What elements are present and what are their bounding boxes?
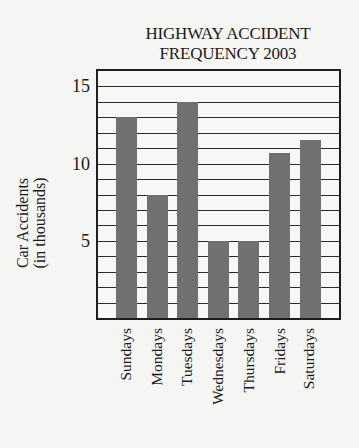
bar-saturdays — [300, 140, 321, 318]
bar-thursdays — [238, 241, 259, 318]
bar-tuesdays — [177, 102, 198, 318]
chart-title-line-1: HIGHWAY ACCIDENT — [128, 24, 328, 44]
x-tick-label: Mondays — [147, 328, 167, 438]
x-tick-label-text: Tuesdays — [179, 328, 195, 386]
x-tick-label: Wednesdays — [208, 328, 228, 438]
bar-sundays — [116, 117, 137, 318]
chart-title: HIGHWAY ACCIDENT FREQUENCY 2003 — [128, 24, 328, 64]
bar-fridays — [269, 153, 290, 318]
y-tick-label: 15 — [60, 77, 90, 95]
plot-area — [96, 69, 341, 320]
y-axis-label-line-2: (in thousands) — [31, 148, 48, 298]
y-axis-label: Car Accidents (in thousands) — [14, 148, 54, 298]
gridline — [98, 102, 339, 103]
x-tick-label: Fridays — [269, 328, 289, 438]
y-axis-label-line-1: Car Accidents — [14, 148, 31, 298]
chart-title-line-2: FREQUENCY 2003 — [128, 44, 328, 64]
x-tick-label-text: Mondays — [149, 328, 165, 386]
bar-wednesdays — [208, 241, 229, 318]
x-tick-label-text: Sundays — [118, 328, 134, 381]
x-tick-label-text: Saturdays — [302, 328, 318, 389]
x-tick-label: Thursdays — [238, 328, 258, 438]
x-tick-label-text: Wednesdays — [210, 328, 226, 405]
x-tick-label: Tuesdays — [177, 328, 197, 438]
x-tick-label: Sundays — [116, 328, 136, 438]
x-tick-label-text: Thursdays — [240, 328, 256, 393]
x-tick-label: Saturdays — [300, 328, 320, 438]
bar-mondays — [147, 195, 168, 319]
y-tick-label: 10 — [60, 155, 90, 173]
y-tick-label: 5 — [60, 232, 90, 250]
x-tick-label-text: Fridays — [271, 328, 287, 375]
gridline — [98, 86, 339, 87]
